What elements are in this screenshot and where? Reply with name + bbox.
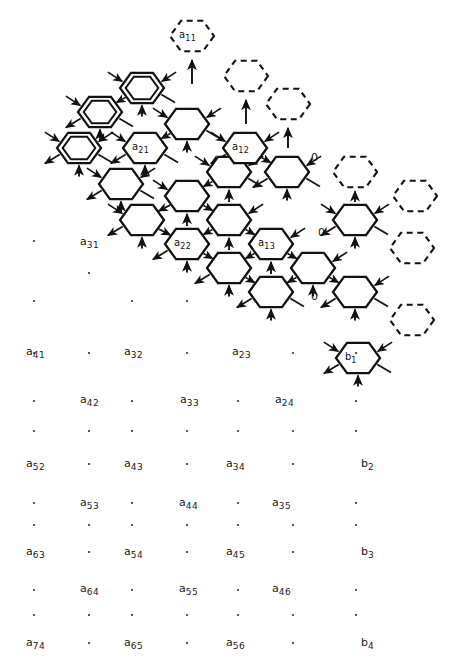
- matrix-element-label: a43: [124, 458, 143, 469]
- ellipsis-dot: [186, 300, 188, 302]
- ellipsis-dot: [355, 502, 357, 504]
- ellipsis-dot: [237, 524, 239, 526]
- ellipsis-dot: [355, 430, 357, 432]
- phantom-hex-cell[interactable]: [224, 61, 268, 91]
- ellipsis-dot: [88, 352, 90, 354]
- ellipsis-dot: [186, 463, 188, 465]
- ellipsis-dot: [131, 400, 133, 402]
- matrix-element-label: a53: [80, 497, 99, 508]
- matrix-element-label: a42: [80, 394, 99, 405]
- ellipsis-dot: [355, 400, 357, 402]
- matrix-element-label: a45: [226, 546, 245, 557]
- matrix-element-label: a32: [124, 346, 143, 357]
- processing-hex-cell[interactable]: [165, 109, 209, 139]
- ellipsis-dot: [33, 300, 35, 302]
- systolic-array-diagram: a21a12a22a13a11b1000a31a41a32a23a42a33a2…: [0, 0, 457, 672]
- ellipsis-dot: [186, 551, 188, 553]
- processing-hex-cell[interactable]: [120, 205, 164, 235]
- ellipsis-dot: [237, 589, 239, 591]
- matrix-element-label: a55: [179, 583, 198, 594]
- hex-cells-layer: [0, 0, 457, 672]
- ellipsis-dot: [131, 589, 133, 591]
- ellipsis-dot: [131, 614, 133, 616]
- matrix-element-label: b3: [361, 546, 374, 557]
- ellipsis-dot: [355, 614, 357, 616]
- ellipsis-dot: [131, 524, 133, 526]
- matrix-element-label: a23: [232, 346, 251, 357]
- processing-hex-cell[interactable]: [333, 277, 377, 307]
- ellipsis-dot: [33, 430, 35, 432]
- hex-cell-label: a12: [232, 142, 249, 152]
- matrix-element-label: a46: [272, 583, 291, 594]
- phantom-hex-cell[interactable]: [333, 157, 377, 187]
- processing-hex-cell[interactable]: [265, 157, 309, 187]
- matrix-element-label: a31: [80, 236, 99, 247]
- ellipsis-dot: [88, 463, 90, 465]
- processing-hex-cell[interactable]: [333, 205, 377, 235]
- ellipsis-dot: [88, 551, 90, 553]
- ellipsis-dot: [186, 524, 188, 526]
- matrix-element-label: a52: [26, 458, 45, 469]
- zero-input-label: 0: [318, 226, 325, 239]
- phantom-hex-cell[interactable]: [266, 89, 310, 119]
- processing-hex-cell[interactable]: [249, 277, 293, 307]
- processing-hex-cell[interactable]: [336, 343, 380, 373]
- ellipsis-dot: [186, 352, 188, 354]
- ellipsis-dot: [237, 502, 239, 504]
- phantom-hex-cell[interactable]: [390, 233, 434, 263]
- ellipsis-dot: [88, 614, 90, 616]
- matrix-element-label: a44: [179, 497, 198, 508]
- ellipsis-dot: [33, 400, 35, 402]
- processing-hex-cell[interactable]: [165, 181, 209, 211]
- ellipsis-dot: [292, 352, 294, 354]
- hex-cell-label: a11: [179, 30, 196, 40]
- ellipsis-dot: [355, 589, 357, 591]
- ellipsis-dot: [292, 524, 294, 526]
- processing-hex-cell[interactable]: [207, 253, 251, 283]
- ellipsis-dot: [237, 430, 239, 432]
- phantom-hex-cell[interactable]: [390, 305, 434, 335]
- ellipsis-dot: [88, 430, 90, 432]
- ellipsis-dot: [292, 551, 294, 553]
- processing-hex-cell[interactable]: [99, 169, 143, 199]
- zero-input-label: 0: [311, 151, 318, 164]
- matrix-element-label: a24: [275, 394, 294, 405]
- ellipsis-dot: [292, 614, 294, 616]
- matrix-element-label: b2: [361, 458, 374, 469]
- ellipsis-dot: [33, 352, 35, 354]
- ellipsis-dot: [33, 240, 35, 242]
- boundary-hex-cell[interactable]: [78, 97, 122, 127]
- boundary-hex-cell[interactable]: [120, 73, 164, 103]
- matrix-element-label: a41: [26, 346, 45, 357]
- ellipsis-dot: [88, 524, 90, 526]
- ellipsis-dot: [33, 524, 35, 526]
- ellipsis-dot: [292, 430, 294, 432]
- ellipsis-dot: [237, 400, 239, 402]
- zero-input-label: 0: [311, 290, 318, 303]
- matrix-element-label: a35: [272, 497, 291, 508]
- ellipsis-dot: [33, 502, 35, 504]
- ellipsis-dot: [186, 642, 188, 644]
- matrix-element-label: b4: [361, 637, 374, 648]
- processing-hex-cell[interactable]: [291, 253, 335, 283]
- processing-hex-cell[interactable]: [207, 205, 251, 235]
- ellipsis-dot: [292, 463, 294, 465]
- ellipsis-dot: [292, 642, 294, 644]
- matrix-element-label: a65: [124, 637, 143, 648]
- hex-cell-label: a21: [132, 142, 149, 152]
- ellipsis-dot: [131, 430, 133, 432]
- ellipsis-dot: [355, 524, 357, 526]
- matrix-element-label: a33: [180, 394, 199, 405]
- ellipsis-dot: [88, 642, 90, 644]
- ellipsis-dot: [33, 614, 35, 616]
- ellipsis-dot: [355, 352, 357, 354]
- matrix-element-label: a63: [26, 546, 45, 557]
- ellipsis-dot: [88, 272, 90, 274]
- matrix-element-label: a34: [226, 458, 245, 469]
- ellipsis-dot: [237, 614, 239, 616]
- ellipsis-dot: [131, 502, 133, 504]
- matrix-element-label: a64: [80, 583, 99, 594]
- phantom-hex-cell[interactable]: [393, 181, 437, 211]
- boundary-hex-cell[interactable]: [57, 133, 101, 163]
- ellipsis-dot: [131, 300, 133, 302]
